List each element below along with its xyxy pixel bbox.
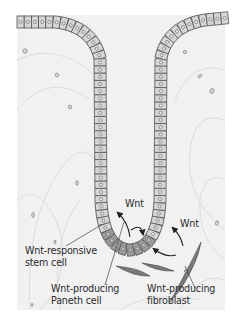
epithelial-cell: [94, 66, 106, 73]
epithelial-cell: [154, 174, 166, 181]
epithelial-cell: [95, 160, 107, 167]
epithelial-cell: [95, 152, 107, 159]
epithelial-cell: [154, 195, 166, 202]
epithelial-cell: [94, 116, 106, 123]
epithelial-cell: [154, 167, 166, 174]
epithelial-cell: [154, 188, 166, 195]
epithelial-cell: [155, 116, 167, 123]
epithelial-cell: [154, 159, 166, 166]
epithelial-cell: [154, 131, 166, 138]
wnt-label-right: Wnt: [180, 218, 199, 229]
epithelial-cell: [155, 66, 167, 73]
epithelial-cell: [94, 73, 106, 80]
epithelial-cell: [154, 152, 166, 159]
epithelial-cell: [95, 181, 107, 188]
epithelial-cell: [155, 102, 167, 109]
epithelial-cell: [17, 16, 24, 28]
paneth-label-line2: Paneth cell: [51, 295, 101, 306]
stem-cell-label-line1: Wnt-responsive: [25, 245, 97, 256]
epithelial-cell: [94, 109, 106, 116]
epithelial-cell: [46, 16, 53, 28]
epithelial-cell: [153, 202, 166, 210]
epithelial-cell: [94, 59, 106, 66]
epithelial-cell: [155, 73, 167, 80]
epithelial-cell: [95, 167, 107, 174]
epithelial-cell: [155, 109, 167, 116]
wnt-label-center: Wnt: [125, 198, 144, 209]
epithelial-cell: [95, 131, 107, 138]
epithelial-cell: [94, 80, 106, 87]
epithelial-cell: [31, 16, 38, 28]
stem-cell-label-line2: stem cell: [25, 257, 67, 268]
paneth-label-line1: Wnt-producing: [51, 283, 119, 294]
epithelial-cell: [95, 145, 107, 152]
epithelial-cell: [154, 181, 166, 188]
epithelial-cell: [94, 95, 106, 102]
epithelial-cell: [95, 188, 107, 195]
epithelial-cell: [95, 138, 107, 145]
epithelial-cell: [155, 95, 167, 102]
crypt-diagram: [0, 0, 237, 324]
epithelial-cell: [154, 145, 166, 152]
epithelial-cell: [155, 80, 167, 87]
epithelial-cell: [220, 12, 228, 25]
fibroblast-label-line1: Wnt-producing: [147, 283, 215, 294]
epithelial-cell: [154, 123, 166, 130]
epithelial-cell: [154, 138, 166, 145]
epithelial-cell: [155, 87, 167, 94]
epithelial-cell: [39, 16, 46, 28]
fibroblast-label-line2: fibroblast: [147, 295, 190, 306]
epithelial-cell: [95, 196, 107, 203]
epithelial-cell: [95, 174, 107, 181]
epithelial-cell: [94, 88, 106, 95]
epithelial-cell: [94, 124, 106, 131]
epithelial-cell: [94, 102, 106, 109]
epithelial-cell: [24, 16, 31, 28]
